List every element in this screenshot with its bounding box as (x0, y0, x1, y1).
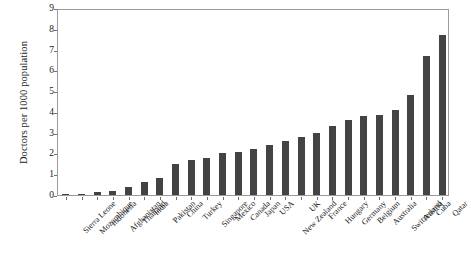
y-axis-ticks: 0123456789 (32, 9, 54, 196)
x-axis-tick-label: Turkey (201, 199, 224, 222)
bar-slot (293, 10, 309, 195)
bar (219, 153, 226, 195)
bar-slot (419, 10, 435, 195)
y-axis-tick-label: 3 (36, 129, 54, 139)
bar (298, 137, 305, 195)
bar (78, 194, 85, 195)
plot-area (57, 9, 449, 196)
bar-slot (230, 10, 246, 195)
bar-slot (105, 10, 121, 195)
x-axis-tick-label: USA (277, 199, 295, 217)
bar-slot (89, 10, 105, 195)
bar (329, 126, 336, 195)
x-axis-tick-labels: Sierra LeoneMozambiqueIndonesiaAfghanist… (57, 199, 449, 265)
bar (360, 116, 367, 195)
y-axis-tick-label: 4 (36, 108, 54, 118)
bar (439, 35, 446, 195)
bar (203, 158, 210, 195)
y-axis-tick-label: 7 (36, 46, 54, 56)
bar (250, 149, 257, 195)
x-axis-tick-label: Qatar (450, 199, 469, 218)
bar-slot (340, 10, 356, 195)
bar-slot (199, 10, 215, 195)
bar-slot (74, 10, 90, 195)
y-axis-tick-label: 5 (36, 87, 54, 97)
y-axis-tick-label: 2 (36, 150, 54, 160)
y-axis-tick-label: 0 (36, 191, 54, 201)
bar-chart-figure: Doctors per 1000 population 0123456789 S… (0, 0, 471, 265)
bar-slot (309, 10, 325, 195)
bar (266, 145, 273, 195)
y-axis-tick-label: 6 (36, 67, 54, 77)
bar-slot (58, 10, 74, 195)
bar-slot (278, 10, 294, 195)
bar (94, 192, 101, 195)
bar (109, 191, 116, 195)
bar (125, 187, 132, 195)
bar (156, 178, 163, 195)
bar (282, 141, 289, 195)
bar (172, 164, 179, 195)
bar-slot (403, 10, 419, 195)
bar-slot (372, 10, 388, 195)
bar-slot (136, 10, 152, 195)
y-axis-title: Doctors per 1000 population (16, 9, 32, 196)
bar-slot (215, 10, 231, 195)
y-axis-tick-label: 9 (36, 4, 54, 14)
bar (376, 115, 383, 195)
bar (188, 160, 195, 195)
y-axis-tick-mark (54, 196, 57, 197)
bar-slot (434, 10, 450, 195)
bar-slot (325, 10, 341, 195)
bar (141, 182, 148, 196)
bar-slot (121, 10, 137, 195)
bar (407, 95, 414, 195)
bar (345, 120, 352, 195)
bar (423, 56, 430, 195)
bar-slot (387, 10, 403, 195)
bars-container (58, 10, 448, 195)
bar-slot (356, 10, 372, 195)
bar (62, 194, 69, 195)
bar-slot (183, 10, 199, 195)
y-axis-tick-label: 1 (36, 170, 54, 180)
bar (313, 133, 320, 195)
bar-slot (168, 10, 184, 195)
bar (235, 152, 242, 195)
y-axis-tick-label: 8 (36, 25, 54, 35)
bar-slot (152, 10, 168, 195)
bar (392, 110, 399, 195)
bar-slot (246, 10, 262, 195)
bar-slot (262, 10, 278, 195)
